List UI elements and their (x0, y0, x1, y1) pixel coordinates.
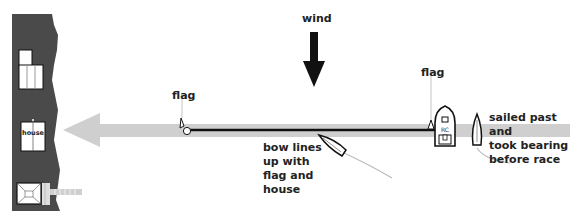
wind-label: wind (302, 12, 332, 26)
bow-note-line: house (263, 183, 322, 197)
bearing-note: sailed past and took bearing before race (489, 111, 579, 167)
bearing-note-line: sailed past and (489, 111, 579, 139)
bow-note-line: flag and (263, 169, 322, 183)
shoreline (12, 14, 60, 211)
flag-icon (428, 72, 434, 129)
house-label: house (22, 129, 44, 137)
bow-note-line: up with (263, 155, 322, 169)
wind-arrow-icon (303, 32, 325, 87)
bearing-note-line: took bearing (489, 139, 579, 153)
bow-note: bow lines up with flag and house (263, 141, 322, 197)
committee-boat-icon: RC (435, 106, 455, 146)
right-flag-label: flag (421, 66, 444, 80)
sailboat-on-line-icon (319, 135, 392, 178)
sailing-diagram: RC wind flag flag house bow lines up wit… (0, 0, 579, 217)
bow-note-line: bow lines (263, 141, 322, 155)
bearing-note-line: before race (489, 153, 579, 167)
left-flag-label: flag (172, 89, 195, 103)
boathouse-icon (17, 183, 82, 205)
svg-text:RC: RC (441, 126, 449, 133)
